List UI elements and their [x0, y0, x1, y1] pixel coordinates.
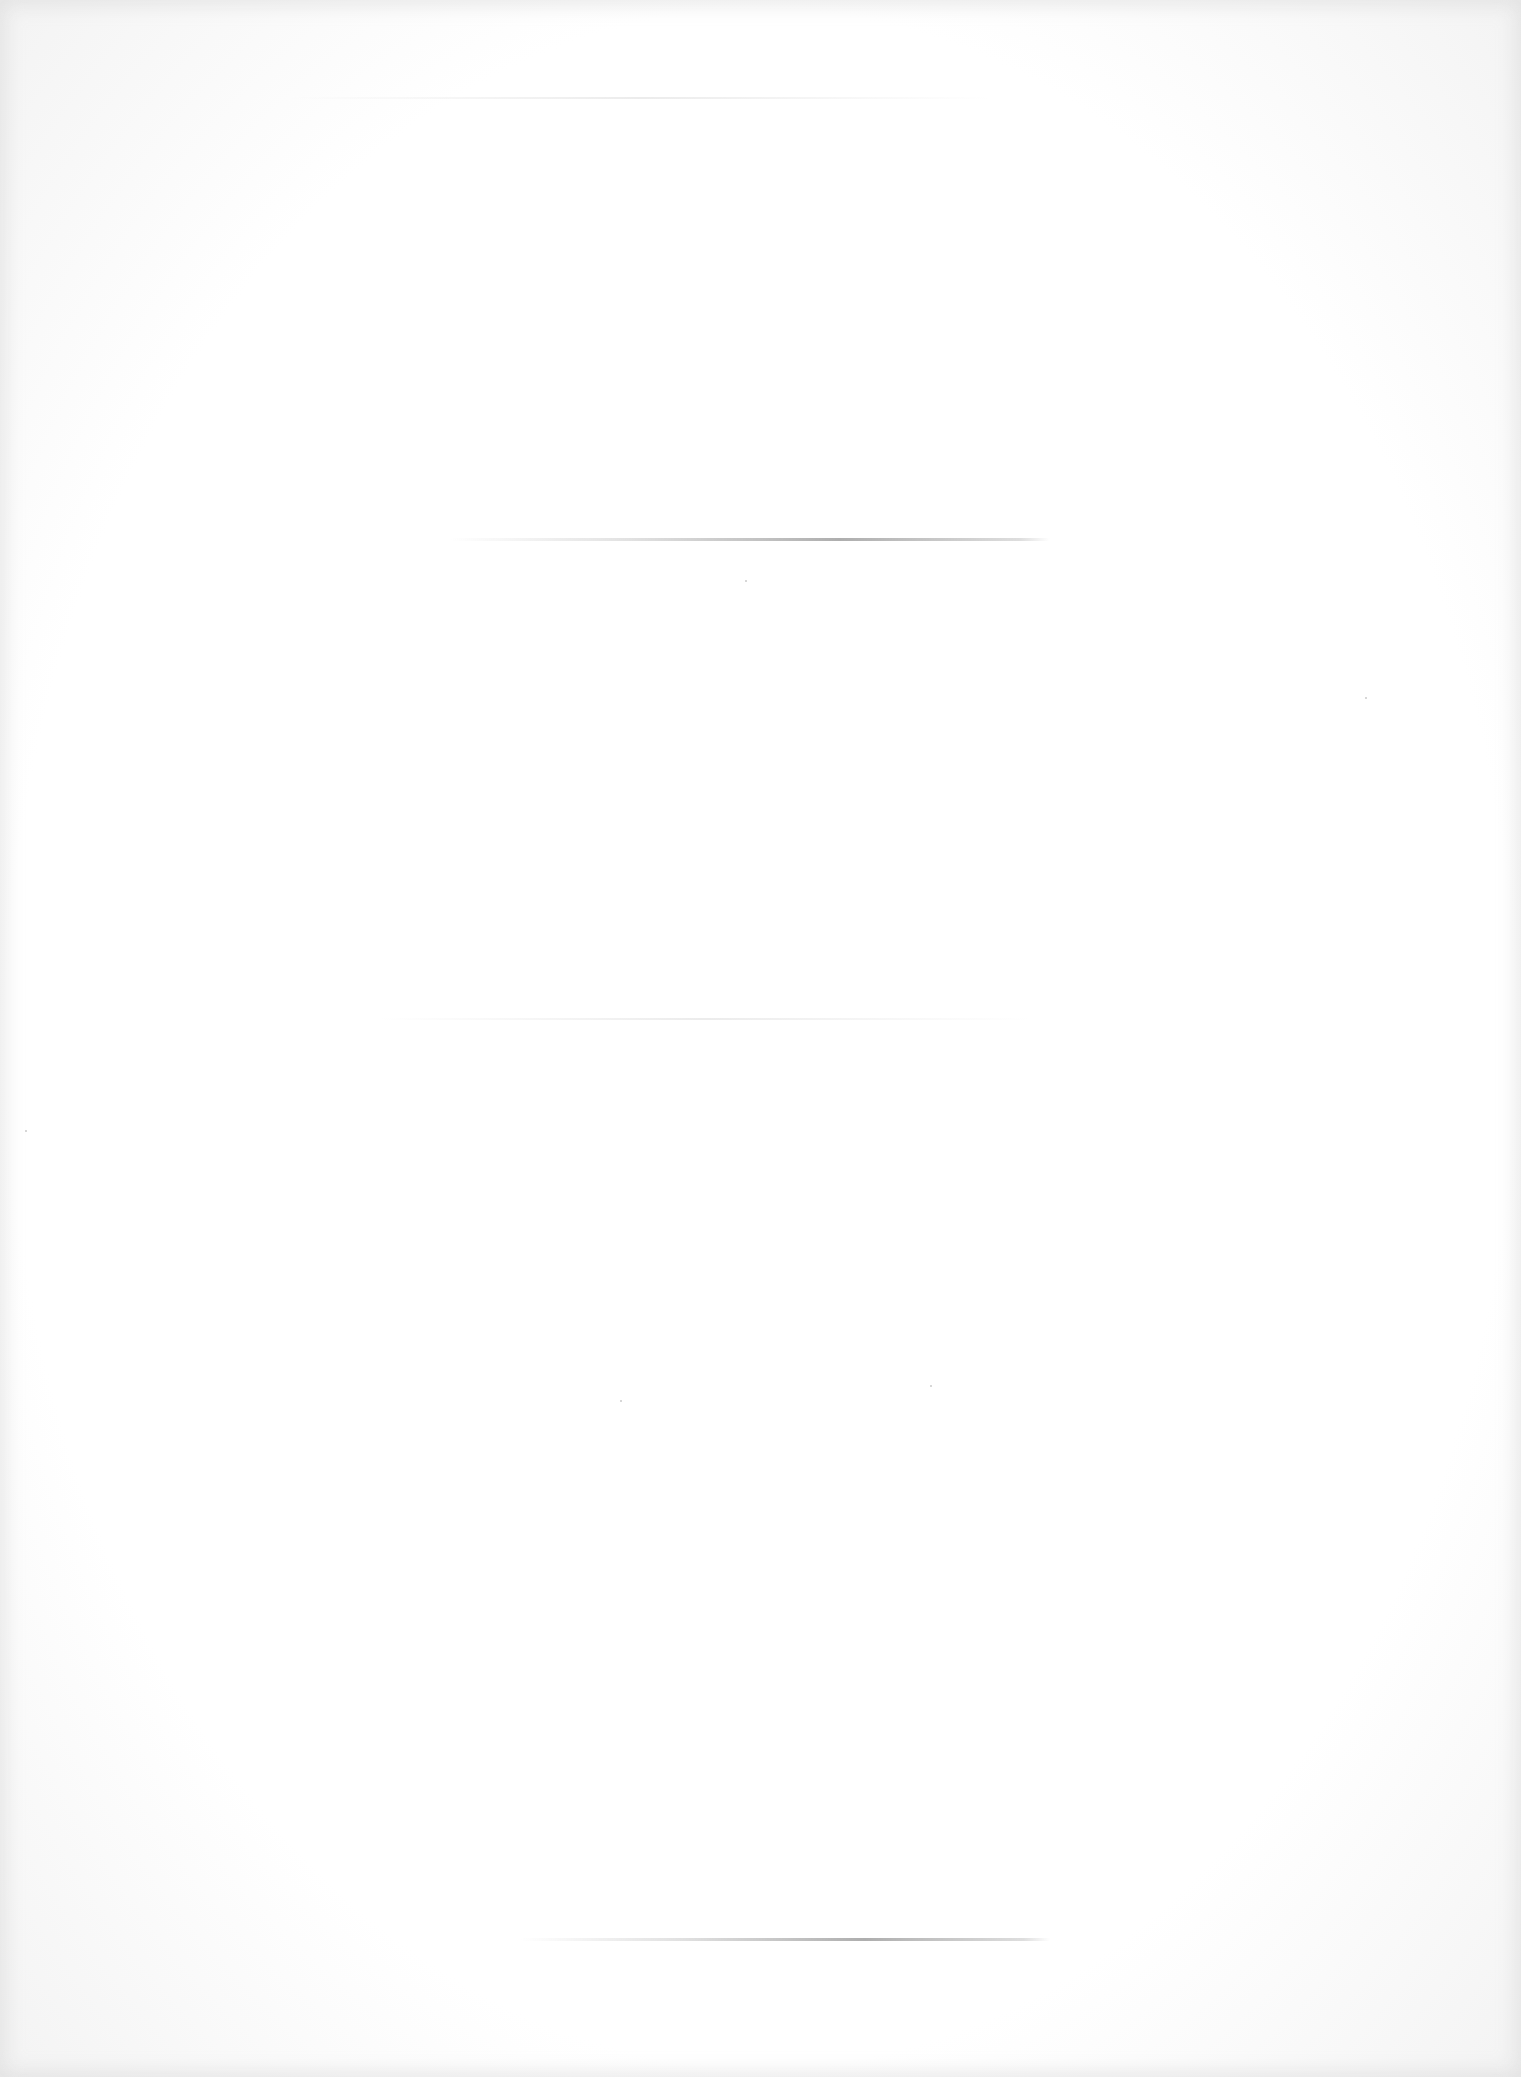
- scan-speck: [25, 1130, 27, 1132]
- scan-speck: [1365, 697, 1367, 699]
- scan-speck: [745, 580, 747, 582]
- scanned-page: [0, 0, 1521, 2077]
- scan-speck: [930, 1385, 932, 1387]
- faint-middle-line: [380, 1018, 1030, 1020]
- faint-top-line: [290, 97, 990, 99]
- bleed-through-line-upper: [450, 538, 1050, 541]
- scan-speck: [620, 1400, 622, 1402]
- page-edge-shadow: [0, 0, 1521, 2077]
- bleed-through-line-lower: [520, 1938, 1050, 1941]
